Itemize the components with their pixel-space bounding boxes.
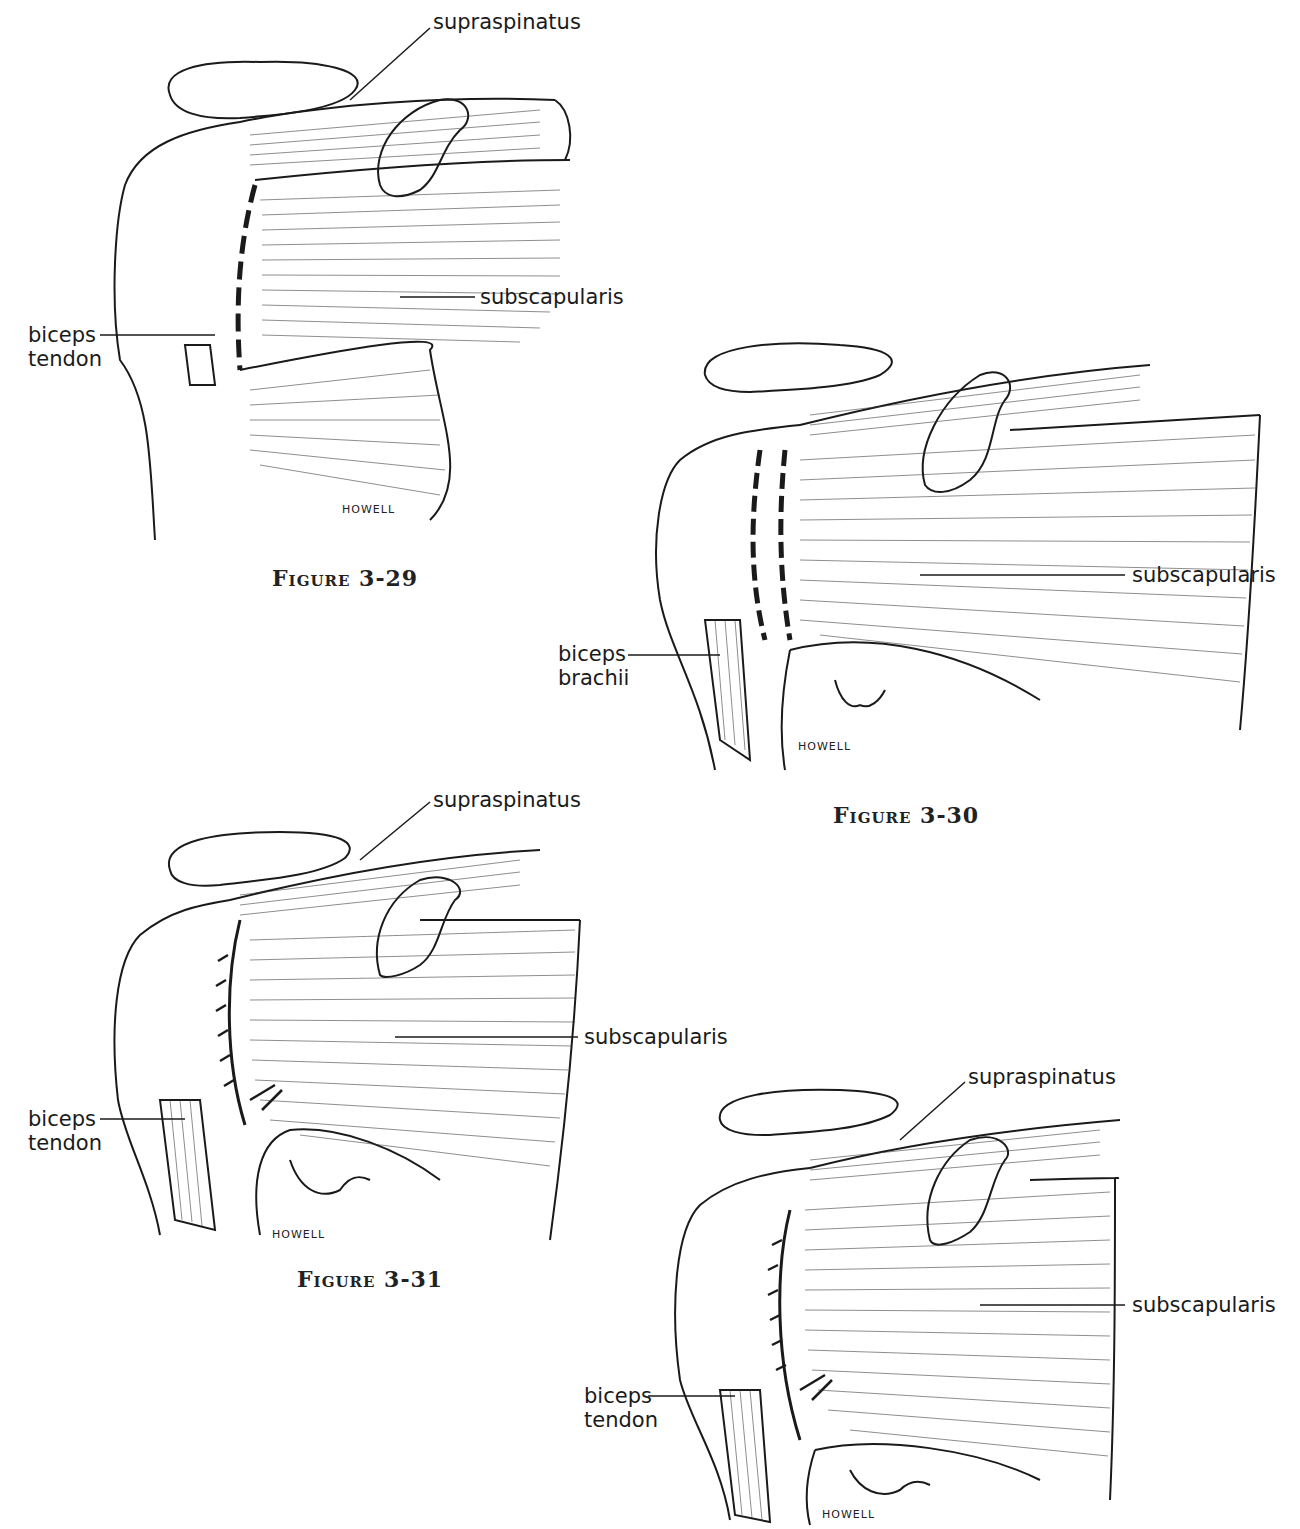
figure-caption: Figure 3-29: [272, 565, 418, 591]
label-subscapularis: subscapularis: [1132, 1293, 1276, 1317]
figure-caption: Figure 3-31: [297, 1266, 443, 1292]
label-subscapularis: subscapularis: [584, 1025, 728, 1049]
label-biceps-line2: tendon: [28, 347, 102, 371]
figure-3-30: subscapularis biceps brachii HOWELL Figu…: [540, 320, 1300, 780]
label-biceps-line1: biceps: [28, 323, 96, 347]
figure-3-32: supraspinatus subscapularis biceps tendo…: [560, 1060, 1300, 1529]
leader-lines: [540, 320, 1300, 780]
artist-signature: HOWELL: [342, 503, 395, 516]
artist-signature: HOWELL: [798, 740, 851, 753]
label-subscapularis: subscapularis: [480, 285, 624, 309]
label-biceps-line1: biceps: [28, 1107, 96, 1131]
label-biceps-line2: brachii: [558, 666, 629, 690]
figure-caption: Figure 3-30: [833, 802, 979, 828]
figure-3-29: supraspinatus subscapularis biceps tendo…: [0, 0, 620, 560]
label-supraspinatus: supraspinatus: [433, 10, 581, 34]
label-supraspinatus: supraspinatus: [433, 788, 581, 812]
artist-signature: HOWELL: [272, 1228, 325, 1241]
label-biceps-line1: biceps: [584, 1384, 652, 1408]
label-biceps-line2: tendon: [584, 1408, 658, 1432]
label-subscapularis: subscapularis: [1132, 563, 1276, 587]
label-supraspinatus: supraspinatus: [968, 1065, 1116, 1089]
leader-lines: [0, 0, 620, 560]
artist-signature: HOWELL: [822, 1508, 875, 1521]
label-biceps-line1: biceps: [558, 642, 626, 666]
label-biceps-line2: tendon: [28, 1131, 102, 1155]
